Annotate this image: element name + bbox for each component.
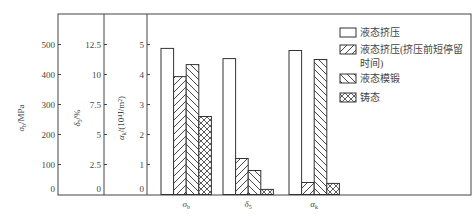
axis-labels: σb/MPaδ5/%αk/(10⁴J/m²) [16, 96, 127, 140]
bar [223, 59, 236, 195]
tick-label: 5 [140, 40, 145, 50]
bar [248, 171, 261, 195]
tick-label: 4 [140, 70, 145, 80]
bar [261, 189, 274, 194]
category-labels: σbδ5αk [182, 199, 318, 210]
tick-label: 200 [42, 130, 56, 140]
tick-label: 500 [42, 40, 56, 50]
tick-label: 0 [51, 184, 56, 194]
tick-label: 2.5 [90, 160, 102, 170]
axis-title-alpha_k: αk/(10⁴J/m²) [116, 96, 127, 140]
bar-chart: 010020030040050002.557.51012.5012345 σb/… [0, 0, 476, 220]
tick-label: 12.5 [85, 40, 101, 50]
tick-label: 3 [140, 100, 145, 110]
tick-label: 0 [140, 184, 145, 194]
tick-label: 300 [42, 100, 56, 110]
bar [302, 183, 315, 195]
bar [186, 65, 199, 195]
tick-label: 100 [42, 160, 56, 170]
legend: 液态挤压液态挤压(挤压前短停留时间)液态模锻铸态 [340, 26, 463, 103]
axis-title-delta_5: δ5/% [72, 109, 83, 127]
legend-swatch [340, 28, 356, 37]
legend-label: 液态模锻 [360, 72, 400, 84]
bar [236, 159, 249, 195]
axis-title-sigma_b: σb/MPa [16, 105, 27, 132]
legend-swatch [340, 45, 356, 54]
legend-label: 铸态 [360, 91, 380, 103]
tick-label: 0 [97, 184, 102, 194]
bar [327, 183, 340, 194]
legend-swatch [340, 93, 356, 102]
bar [199, 117, 212, 195]
tick-label: 7.5 [90, 100, 102, 110]
bar [314, 60, 327, 195]
category-label: σb [182, 199, 189, 210]
legend-label-cont: 时间) [360, 57, 383, 70]
category-label: δ5 [245, 199, 252, 210]
tick-label: 1 [140, 160, 145, 170]
bar [161, 48, 174, 194]
bar [289, 51, 302, 195]
category-label: αk [310, 199, 318, 210]
tick-label: 10 [92, 70, 102, 80]
bars [161, 48, 339, 194]
legend-label: 液态挤压 [360, 26, 400, 38]
bar [174, 77, 187, 195]
legend-label: 液态挤压(挤压前短停留 [360, 43, 463, 56]
tick-label: 2 [140, 130, 145, 140]
tick-label: 400 [42, 70, 56, 80]
legend-swatch [340, 74, 356, 83]
tick-label: 5 [97, 130, 102, 140]
